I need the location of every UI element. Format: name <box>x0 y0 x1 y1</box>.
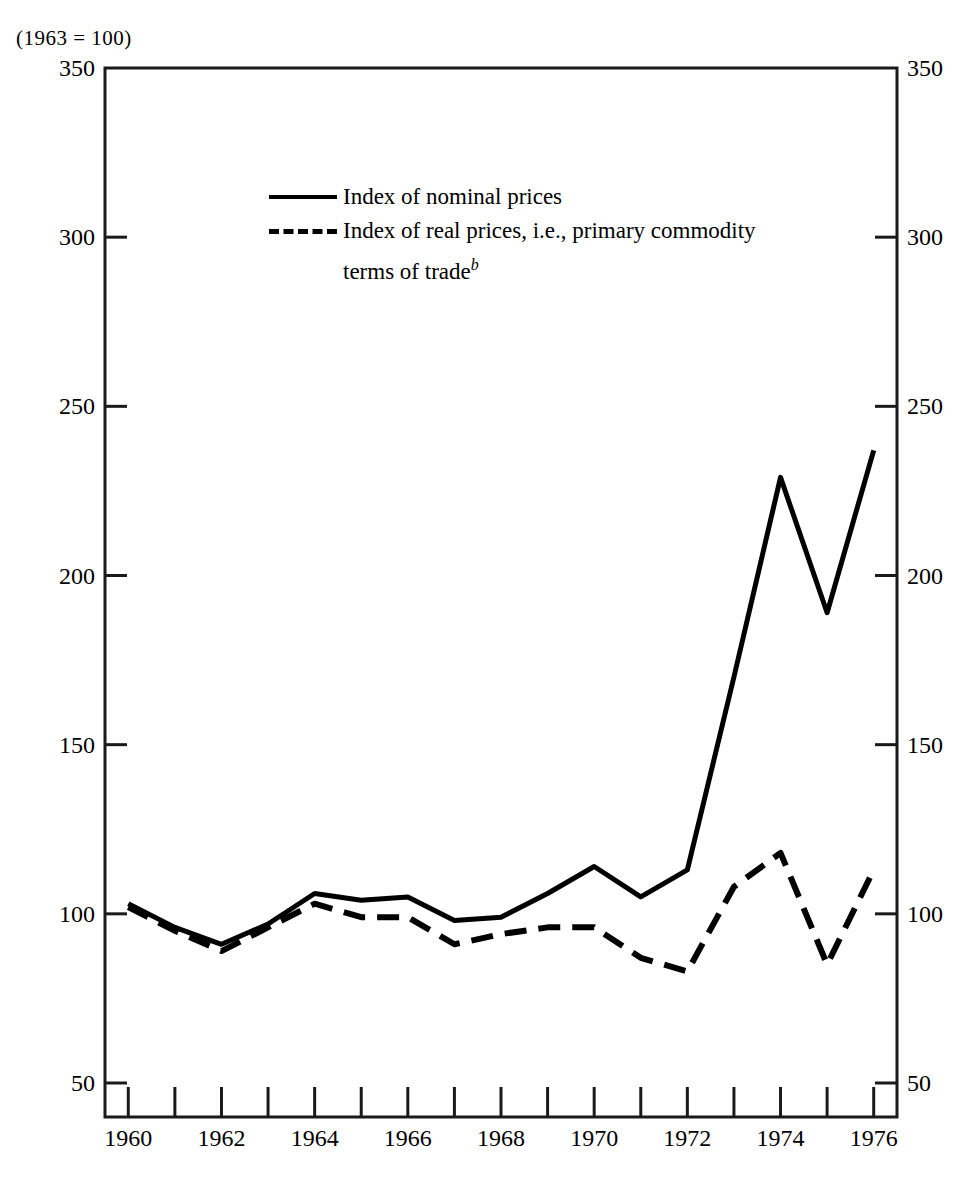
data-series-layer <box>128 450 873 971</box>
chart-plot-area <box>0 0 966 1181</box>
x-axis-tick-label: 1976 <box>850 1125 898 1152</box>
y-axis-tick-label-left: 350 <box>59 55 95 82</box>
x-axis-tick-label: 1960 <box>104 1125 152 1152</box>
legend-item-nominal: Index of nominal prices <box>269 180 756 214</box>
y-axis-tick-label-right: 250 <box>907 393 943 420</box>
x-axis-tick-label: 1974 <box>757 1125 805 1152</box>
x-axis-tick-label: 1970 <box>570 1125 618 1152</box>
y-axis-tick-label-right: 350 <box>907 55 943 82</box>
x-axis-tick-marks <box>128 1087 873 1117</box>
y-axis-tick-label-right: 300 <box>907 224 943 251</box>
y-axis-tick-label-left: 250 <box>59 393 95 420</box>
legend-label-real-line2: terms of trade <box>343 259 471 284</box>
chart-legend: Index of nominal prices Index of real pr… <box>269 180 756 289</box>
y-axis-tick-label-right: 150 <box>907 731 943 758</box>
x-axis-tick-label: 1964 <box>291 1125 339 1152</box>
y-axis-tick-label-left: 150 <box>59 731 95 758</box>
x-axis-tick-label: 1972 <box>663 1125 711 1152</box>
series-line-real-prices <box>128 853 873 971</box>
y-axis-tick-label-right: 200 <box>907 562 943 589</box>
legend-footnote-marker: b <box>471 256 479 273</box>
legend-item-real: Index of real prices, i.e., primary comm… <box>269 214 756 248</box>
legend-label-nominal: Index of nominal prices <box>343 180 562 214</box>
series-line-nominal-prices <box>128 450 873 944</box>
legend-label-real: Index of real prices, i.e., primary comm… <box>343 214 756 248</box>
x-axis-tick-label: 1966 <box>384 1125 432 1152</box>
y-axis-tick-label-right: 100 <box>907 900 943 927</box>
y-axis-tick-marks <box>105 237 897 1083</box>
legend-swatch-dashed-icon <box>269 214 343 248</box>
x-axis-tick-label: 1962 <box>197 1125 245 1152</box>
y-axis-tick-label-left: 50 <box>71 1070 95 1097</box>
x-axis-tick-label: 1968 <box>477 1125 525 1152</box>
legend-swatch-solid-icon <box>269 180 343 214</box>
y-axis-tick-label-right: 50 <box>907 1070 931 1097</box>
chart-figure: (1963 = 100) 35030025020015010050 350300… <box>0 0 966 1181</box>
legend-item-real-line2: terms of tradeb <box>269 248 756 289</box>
y-axis-tick-label-left: 100 <box>59 900 95 927</box>
y-axis-tick-label-left: 300 <box>59 224 95 251</box>
y-axis-tick-label-left: 200 <box>59 562 95 589</box>
